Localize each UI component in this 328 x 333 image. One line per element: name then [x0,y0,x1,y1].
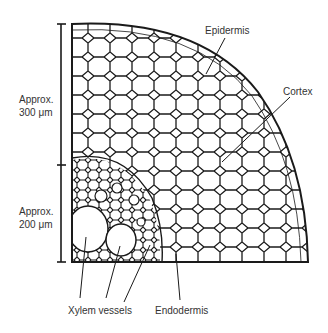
epidermis-label: Epidermis [205,25,249,37]
scale-top-label-1: Approx. [19,94,53,106]
xylem-vessels-label: Xylem vessels [68,305,132,317]
scale-bottom-label-1: Approx. [19,206,53,218]
xylem-vessel-medium [106,224,136,256]
scale-bottom-label-2: 200 μm [19,219,53,231]
xylem-vessel-large [68,206,108,252]
scale-bar [57,24,66,262]
endodermis-label: Endodermis [155,305,208,317]
cortex-label: Cortex [283,86,312,98]
scale-top-label-2: 300 μm [19,107,53,119]
root-cross-section-diagram [0,0,328,333]
cortex-cells [68,18,312,264]
